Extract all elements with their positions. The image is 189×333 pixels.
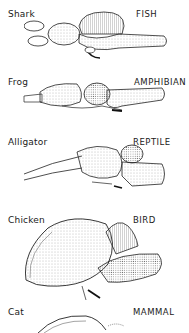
chicken-brain-illustration [18,212,168,302]
class-label-mammal: MAMMAL [133,307,174,317]
shark-brain-illustration [24,8,169,60]
frog-brain-illustration [22,80,167,120]
cat-brain-illustration [36,312,136,333]
species-label-cat: Cat [8,307,24,317]
alligator-brain-illustration [22,142,167,194]
